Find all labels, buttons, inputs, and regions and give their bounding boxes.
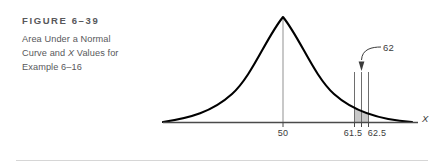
- normal-distribution-curve: [163, 17, 412, 122]
- bottom-divider: [16, 160, 428, 161]
- axis-tick-label-50: 50: [278, 128, 288, 138]
- figure-caption-text: Area Under a Normal Curve and X Values f…: [22, 32, 140, 75]
- caption-line-2-suffix: Values for: [74, 48, 118, 58]
- figure-caption-block: FIGURE 6–39 Area Under a Normal Curve an…: [22, 14, 140, 75]
- figure-number: FIGURE 6–39: [22, 14, 140, 27]
- caption-line-2-prefix: Curve and: [22, 48, 68, 58]
- caption-line-1: Area Under a Normal: [22, 34, 111, 44]
- x-axis-label: X: [422, 113, 428, 124]
- normal-curve-plot: 50 61.5 62.5 62 X: [150, 0, 442, 167]
- callout-arrowhead-icon: [359, 62, 365, 72]
- callout-leader-line: [362, 47, 382, 60]
- axis-tick-label-61-5: 61.5: [344, 128, 362, 138]
- figure-container: FIGURE 6–39 Area Under a Normal Curve an…: [0, 0, 442, 167]
- caption-line-3: Example 6–16: [22, 62, 82, 72]
- axis-tick-label-62-5: 62.5: [368, 128, 386, 138]
- plot-svg: [150, 0, 442, 167]
- callout-label-62: 62: [383, 42, 394, 53]
